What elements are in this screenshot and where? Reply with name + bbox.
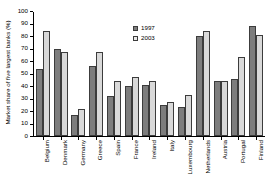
legend-item: 2003 [133,34,155,42]
bar-group [247,12,265,136]
x-axis-label: Luxembourg [186,140,193,174]
bar-group [229,12,247,136]
x-axis-label-cell: Germany [70,140,88,190]
bar [178,107,185,136]
y-axis-tick-mark [30,74,33,75]
bar-group [105,12,123,136]
y-axis-tick: 100 [12,11,33,12]
x-axis-label-cell: Portugal [230,140,248,190]
bar-group [194,12,212,136]
x-axis-label: Italy [168,140,175,151]
y-axis-tick-label: 100 [18,7,28,15]
y-axis-tick: 0 [12,136,33,137]
bar [238,57,245,136]
legend-swatch-icon [133,36,138,41]
x-axis-label: Finland [257,140,264,160]
legend-label: 1997 [141,24,155,32]
bar [107,96,114,136]
y-axis-tick: 80 [12,36,33,37]
bar [185,95,192,136]
y-axis-tick: 90 [12,24,33,25]
y-axis-tick-mark [30,124,33,125]
y-axis-tick-label: 50 [21,69,28,77]
chart-legend: 19972003 [133,24,155,42]
x-axis-label: Spain [114,140,121,156]
bar [196,36,203,136]
bar [132,77,139,136]
bar [142,85,149,136]
legend-swatch-icon [133,26,138,31]
y-axis-tick-label: 30 [21,94,28,102]
x-axis-label-cell: Finland [248,140,266,190]
y-axis-tick: 20 [12,111,33,112]
x-axis-label-cell: Italy [159,140,177,190]
bar [231,79,238,137]
x-axis-label: Austria [221,140,228,159]
bar [89,66,96,136]
y-axis-tick-label: 10 [21,119,28,127]
x-axis-label-cell: Austria [212,140,230,190]
bar [149,81,156,136]
y-axis-tick-mark [30,11,33,12]
bar-group [212,12,230,136]
y-axis-tick-label: 40 [21,82,28,90]
bar-group [34,12,52,136]
y-axis-tick-label: 70 [21,44,28,52]
bar [214,81,221,136]
x-axis-label-cell: Belgium [34,140,52,190]
y-axis-tick: 50 [12,74,33,75]
y-axis-tick-mark [30,99,33,100]
bar [43,31,50,136]
y-axis-tick-mark [30,86,33,87]
legend-label: 2003 [141,34,155,42]
y-axis-tick: 30 [12,99,33,100]
x-axis-label-cell: France [123,140,141,190]
x-axis-label: France [132,140,139,159]
bar [249,26,256,136]
y-axis-tick: 60 [12,61,33,62]
x-axis-labels: BelgiumDenmarkGermanyGreeceSpainFranceIr… [34,140,266,190]
y-axis-tick-label: 90 [21,19,28,27]
y-axis-tick: 70 [12,49,33,50]
bar [221,81,228,136]
y-axis-tick-label: 80 [21,32,28,40]
x-axis-label: Germany [79,140,86,165]
y-axis-tick-mark [30,24,33,25]
x-axis-label-cell: Denmark [52,140,70,190]
x-axis-label: Denmark [61,140,68,165]
bar [203,31,210,136]
x-axis-label-cell: Greece [88,140,106,190]
x-axis-label-cell: Netherlands [195,140,213,190]
y-axis-tick-mark [30,61,33,62]
x-axis-label-cell: Ireland [141,140,159,190]
x-axis-label: Belgium [43,140,50,162]
x-axis-label-cell: Spain [105,140,123,190]
bar-group [70,12,88,136]
y-axis-tick-label: 20 [21,107,28,115]
bar-group [158,12,176,136]
x-axis-label: Portugal [239,140,246,163]
x-axis-label: Ireland [150,140,157,159]
bar [54,49,61,137]
bar-group [87,12,105,136]
y-axis-title-text: Market share of five largest banks (%) [4,20,11,124]
bar [71,115,78,136]
y-axis-tick-label: 60 [21,57,28,65]
bar [61,52,68,136]
legend-item: 1997 [133,24,155,32]
bar [36,69,43,137]
x-axis-label: Greece [96,140,103,160]
x-axis-label: Netherlands [204,140,211,173]
bar [125,86,132,136]
bar [114,81,121,136]
y-axis-tick-mark [30,49,33,50]
bar-group [176,12,194,136]
y-axis-tick-mark [30,36,33,37]
y-axis-tick: 40 [12,86,33,87]
y-axis-tick: 10 [12,124,33,125]
bar [256,35,263,136]
x-axis-label-cell: Luxembourg [177,140,195,190]
bar [78,109,85,137]
bar [96,52,103,136]
y-axis-tick-label: 0 [25,132,28,140]
